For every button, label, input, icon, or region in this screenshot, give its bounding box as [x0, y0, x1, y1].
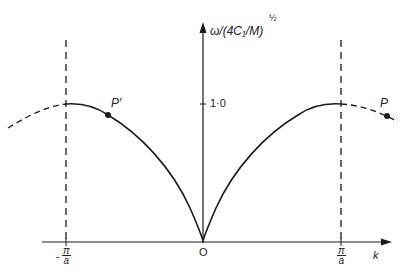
point-p-prime	[105, 112, 111, 118]
right-boundary-label: π a	[337, 246, 346, 265]
point-p-label: P	[380, 96, 388, 110]
y-axis-label: ω/(4C₁/M)	[210, 24, 263, 38]
point-p-prime-label: P′	[111, 96, 121, 110]
y-axis-arrow-icon	[200, 22, 207, 33]
point-p	[384, 113, 390, 119]
y-axis-exponent: ½	[269, 13, 277, 23]
left-boundary-denominator: a	[64, 256, 70, 265]
y-tick-label: 1·0	[210, 97, 226, 109]
dispersion-diagram	[0, 0, 411, 272]
left-boundary-label: π a	[62, 246, 71, 265]
dispersion-curve-dashed-right	[341, 104, 398, 122]
x-axis-arrow-icon	[381, 239, 392, 246]
dispersion-curve-dashed-left	[8, 104, 66, 128]
origin-label: O	[199, 246, 208, 258]
right-boundary-denominator: a	[339, 256, 345, 265]
left-boundary-sign: -	[56, 251, 59, 262]
x-axis-label: k	[373, 249, 379, 261]
